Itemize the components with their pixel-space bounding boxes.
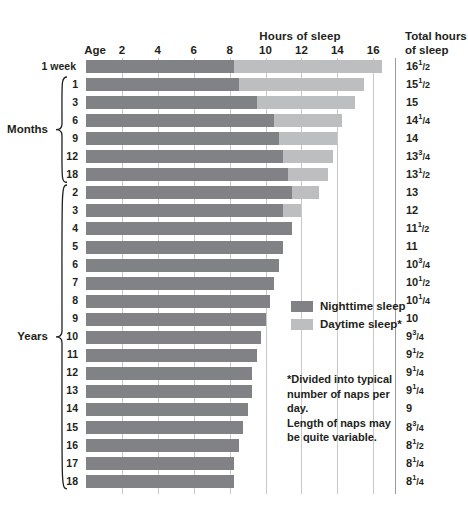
- bar-row: [86, 403, 248, 416]
- total-hours-value: 161/2: [406, 60, 430, 73]
- bar-row: [86, 295, 270, 308]
- total-hours-value: 133/4: [406, 150, 430, 163]
- bar-segment-daytime: [257, 96, 356, 109]
- bar-segment-nighttime: [86, 367, 252, 380]
- legend-label-nighttime: Nighttime sleep: [320, 300, 406, 312]
- total-hours-value: 83/4: [406, 421, 424, 434]
- group-bracket: Years: [0, 184, 86, 490]
- bar-row: [86, 60, 382, 73]
- bar-segment-nighttime: [86, 168, 288, 181]
- bar-segment-nighttime: [86, 457, 234, 470]
- bar-segment-nighttime: [86, 78, 239, 91]
- total-hours-value: 101/2: [406, 276, 430, 289]
- x-tick-label-2: 2: [109, 44, 135, 56]
- bar-segment-daytime: [239, 78, 365, 91]
- bar-row: [86, 349, 257, 362]
- bar-segment-daytime: [274, 114, 341, 127]
- total-hours-value: 81/4: [406, 457, 424, 470]
- x-tick-label-4: 4: [145, 44, 171, 56]
- bar-row: [86, 331, 261, 344]
- bar-segment-nighttime: [86, 331, 261, 344]
- bar-segment-daytime: [292, 186, 319, 199]
- bar-segment-nighttime: [86, 150, 283, 163]
- x-tick-label-16: 16: [360, 44, 386, 56]
- legend-label-daytime: Daytime sleep*: [320, 318, 402, 330]
- bar-segment-nighttime: [86, 222, 292, 235]
- total-hours-value: 93/4: [406, 330, 424, 343]
- total-hours-value: 12: [406, 204, 418, 217]
- bar-segment-nighttime: [86, 186, 292, 199]
- bar-segment-nighttime: [86, 439, 239, 452]
- column-header-age: Age: [66, 44, 106, 56]
- x-tick-label-14: 14: [324, 44, 350, 56]
- x-tick-label-10: 10: [253, 44, 279, 56]
- bar-row: [86, 150, 333, 163]
- bar-row: [86, 457, 234, 470]
- curly-brace-icon: [54, 76, 70, 183]
- bar-segment-nighttime: [86, 403, 248, 416]
- bar-segment-nighttime: [86, 421, 243, 434]
- column-header-total-hours: Total hours of sleep: [405, 30, 468, 57]
- total-hours-value: 91/2: [406, 348, 424, 361]
- legend-item-daytime: Daytime sleep*: [291, 318, 406, 330]
- bar-segment-daytime: [288, 168, 328, 181]
- group-bracket: Months: [0, 76, 86, 183]
- footnote-line-1: *Divided into typical: [287, 372, 407, 387]
- bar-segment-daytime: [283, 204, 301, 217]
- bar-segment-nighttime: [86, 475, 234, 488]
- bar-segment-nighttime: [86, 96, 257, 109]
- total-hours-value: 91/4: [406, 384, 424, 397]
- total-hours-value: 11: [406, 240, 418, 253]
- bar-segment-daytime: [283, 150, 332, 163]
- total-hours-value: 10: [406, 312, 418, 325]
- legend-swatch-nighttime: [291, 301, 313, 312]
- bar-segment-nighttime: [86, 295, 270, 308]
- x-tick-label-6: 6: [181, 44, 207, 56]
- curly-brace-icon: [54, 184, 70, 490]
- total-hours-value: 151/2: [406, 78, 430, 91]
- total-hours-value: 131/2: [406, 168, 430, 181]
- legend-swatch-daytime: [291, 319, 313, 330]
- bar-segment-nighttime: [86, 349, 257, 362]
- bar-row: [86, 367, 252, 380]
- total-hours-value: 13: [406, 186, 418, 199]
- total-hours-value: 14: [406, 132, 418, 145]
- bar-row: [86, 222, 292, 235]
- bar-row: [86, 78, 364, 91]
- bar-segment-nighttime: [86, 313, 266, 326]
- total-hours-value: 15: [406, 96, 418, 109]
- footnote-line-2: number of naps per day.: [287, 387, 407, 416]
- bar-row: [86, 475, 234, 488]
- bar-row: [86, 277, 274, 290]
- total-hours-value: 111/2: [406, 222, 429, 235]
- legend: Nighttime sleep Daytime sleep*: [291, 300, 406, 330]
- bar-segment-nighttime: [86, 259, 279, 272]
- bar-segment-nighttime: [86, 60, 234, 73]
- footnote: *Divided into typical number of naps per…: [287, 372, 407, 445]
- total-header-line1: Total hours: [405, 30, 468, 44]
- legend-item-nighttime: Nighttime sleep: [291, 300, 406, 312]
- bar-row: [86, 186, 319, 199]
- x-tick-label-8: 8: [217, 44, 243, 56]
- bar-segment-daytime: [279, 132, 337, 145]
- bar-row: [86, 385, 252, 398]
- total-hours-value: 81/4: [406, 475, 424, 488]
- bar-segment-nighttime: [86, 132, 279, 145]
- bar-row: [86, 259, 279, 272]
- bar-row: [86, 132, 337, 145]
- group-bracket-label: Years: [0, 330, 48, 342]
- group-bracket-label: Months: [0, 123, 48, 135]
- total-hours-value: 103/4: [406, 258, 430, 271]
- bar-row: [86, 241, 283, 254]
- total-header-line2: of sleep: [405, 44, 468, 58]
- total-hours-value: 91/4: [406, 366, 424, 379]
- bar-row: [86, 439, 239, 452]
- total-hours-value: 81/2: [406, 439, 424, 452]
- bar-segment-daytime: [234, 60, 382, 73]
- bar-segment-nighttime: [86, 385, 252, 398]
- x-tick-label-12: 12: [288, 44, 314, 56]
- footnote-line-4: be quite variable.: [287, 430, 407, 445]
- bar-row: [86, 421, 243, 434]
- bar-segment-nighttime: [86, 277, 274, 290]
- bar-row: [86, 204, 301, 217]
